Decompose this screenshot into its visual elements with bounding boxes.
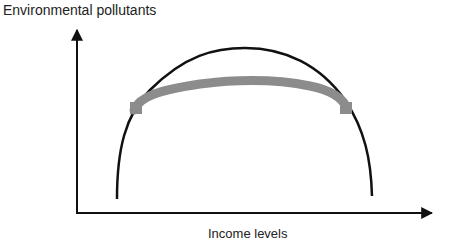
- right-end-marker: [340, 102, 352, 114]
- inverted-u-curve: [117, 48, 372, 199]
- left-end-marker: [130, 102, 142, 114]
- diagram-canvas: [0, 0, 449, 244]
- flattened-curve: [134, 81, 347, 110]
